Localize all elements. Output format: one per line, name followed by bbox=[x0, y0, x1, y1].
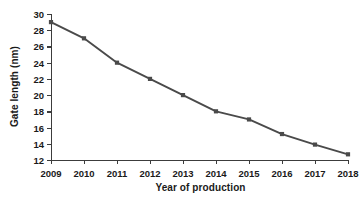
y-tick-label-30: 30 bbox=[33, 9, 44, 20]
y-tick-label-28: 28 bbox=[33, 25, 44, 36]
data-series-line bbox=[51, 14, 348, 160]
x-tick-2018 bbox=[348, 160, 349, 164]
x-tick-label-2013: 2013 bbox=[172, 168, 193, 179]
data-point-2013 bbox=[181, 93, 185, 97]
x-tick-label-2018: 2018 bbox=[337, 168, 358, 179]
data-point-2011 bbox=[115, 61, 119, 65]
x-tick-label-2012: 2012 bbox=[139, 168, 160, 179]
data-point-2012 bbox=[148, 77, 152, 81]
x-tick-2013 bbox=[183, 160, 184, 164]
x-tick-label-2011: 2011 bbox=[107, 168, 128, 179]
x-tick-label-2009: 2009 bbox=[40, 168, 61, 179]
y-tick-label-18: 18 bbox=[33, 106, 44, 117]
x-tick-label-2014: 2014 bbox=[205, 168, 226, 179]
y-tick-label-22: 22 bbox=[33, 73, 44, 84]
x-axis-spine bbox=[51, 160, 348, 161]
series-polyline bbox=[51, 22, 348, 154]
data-point-2010 bbox=[82, 36, 86, 40]
data-point-2009 bbox=[49, 20, 53, 24]
y-tick-label-26: 26 bbox=[33, 41, 44, 52]
x-tick-2016 bbox=[282, 160, 283, 164]
data-point-2017 bbox=[313, 142, 317, 146]
data-point-2018 bbox=[346, 152, 350, 156]
y-tick-label-24: 24 bbox=[33, 57, 44, 68]
x-tick-2012 bbox=[150, 160, 151, 164]
x-axis-title: Year of production bbox=[48, 182, 353, 193]
y-tick-label-20: 20 bbox=[33, 90, 44, 101]
data-point-2016 bbox=[280, 132, 284, 136]
y-axis-title: Gate length (nm) bbox=[9, 22, 20, 152]
y-tick-label-12: 12 bbox=[33, 155, 44, 166]
x-tick-2015 bbox=[249, 160, 250, 164]
chart-figure: Gate length (nm) Year of production 1214… bbox=[0, 0, 362, 204]
data-point-2014 bbox=[214, 109, 218, 113]
x-tick-2010 bbox=[84, 160, 85, 164]
x-tick-2014 bbox=[216, 160, 217, 164]
x-tick-label-2017: 2017 bbox=[304, 168, 325, 179]
y-tick-label-14: 14 bbox=[33, 138, 44, 149]
x-tick-label-2016: 2016 bbox=[271, 168, 292, 179]
data-point-2015 bbox=[247, 117, 251, 121]
x-tick-2011 bbox=[117, 160, 118, 164]
x-tick-2017 bbox=[315, 160, 316, 164]
y-tick-label-16: 16 bbox=[33, 122, 44, 133]
x-tick-2009 bbox=[51, 160, 52, 164]
plot-area: 12141618202224262830 2009201020112012201… bbox=[51, 14, 348, 160]
x-tick-label-2010: 2010 bbox=[73, 168, 94, 179]
x-tick-label-2015: 2015 bbox=[238, 168, 259, 179]
